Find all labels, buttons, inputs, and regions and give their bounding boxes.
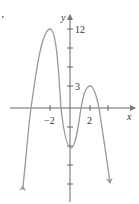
x-tick-label-neg2: −2 xyxy=(44,115,55,126)
function-graph: y 12 3 −2 2 x xyxy=(0,0,139,204)
x-tick-label-2: 2 xyxy=(87,115,92,126)
y-axis-label: y xyxy=(60,12,66,23)
y-tick-label-12: 12 xyxy=(75,24,85,35)
function-curve xyxy=(23,29,110,186)
stray-dot xyxy=(2,16,4,18)
y-tick-label-3: 3 xyxy=(75,81,80,92)
x-axis-label: x xyxy=(126,111,132,122)
